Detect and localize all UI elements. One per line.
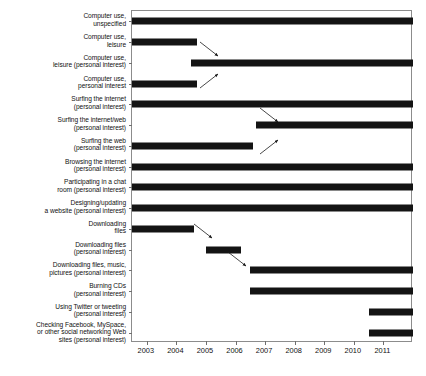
y-axis-tick [129,125,133,126]
y-axis-tick [129,21,133,22]
y-axis-label: Browsing the internet (personal interest… [0,158,126,173]
y-axis-label: Designing/updating a website (personal i… [0,200,126,215]
y-axis-label: Surfing the internet (personal interest) [0,96,126,111]
y-axis-label: Checking Facebook, MySpace, or other soc… [0,320,126,343]
y-axis-label: Participating in a chat room (personal i… [0,179,126,194]
timeline-bar [132,142,253,149]
y-axis-label: Computer use, personal interest [0,75,126,90]
y-axis-tick [129,63,133,64]
y-axis-category-labels: Computer use, unspecifiedComputer use, l… [0,0,126,376]
y-axis-tick [129,146,133,147]
x-axis-tick [354,341,355,345]
x-axis-tick [206,341,207,345]
timeline-bar [132,39,197,46]
x-axis-tick [383,341,384,345]
timeline-bar [132,163,413,170]
x-axis-tick [324,341,325,345]
y-axis-tick [129,167,133,168]
timeline-bar [132,184,413,191]
timeline-chart-figure: Computer use, unspecifiedComputer use, l… [0,0,426,376]
x-axis-tick-labels: 200320042005200620072008200920102011 [131,346,412,362]
timeline-bar [256,122,413,129]
y-axis-label: Computer use, unspecified [0,13,126,28]
timeline-bar [250,267,413,274]
timeline-bar [250,288,413,295]
y-axis-label: Using Twitter or tweeting (personal inte… [0,303,126,318]
x-axis-tick [147,341,148,345]
y-axis-tick [129,104,133,105]
y-axis-tick [129,291,133,292]
y-axis-label: Surfing the internet/web (personal inter… [0,117,126,132]
y-axis-tick [129,270,133,271]
x-axis-tick [265,341,266,345]
y-axis-tick [129,42,133,43]
x-axis-tick-label: 2011 [362,346,402,355]
plot-area [131,10,412,342]
timeline-bar [191,59,413,66]
x-axis-tick [236,341,237,345]
y-axis-label: Burning CDs (personal interest) [0,283,126,298]
timeline-bar [369,329,413,336]
y-axis-label: Downloading files [0,220,126,235]
timeline-bar [369,308,413,315]
y-axis-label: Downloading files, music, pictures (pers… [0,262,126,277]
timeline-bar [132,18,413,25]
y-axis-tick [129,312,133,313]
y-axis-label: Computer use, leisure (personal interest… [0,54,126,69]
y-axis-tick [129,333,133,334]
timeline-bar [132,225,194,232]
timeline-bar [132,80,197,87]
timeline-bar [206,246,241,253]
x-axis-tick [176,341,177,345]
x-axis-tick [295,341,296,345]
y-axis-tick [129,187,133,188]
y-axis-tick [129,208,133,209]
y-axis-tick [129,250,133,251]
timeline-bar [132,205,413,212]
y-axis-label: Downloading files (personal interest) [0,241,126,256]
y-axis-tick [129,229,133,230]
y-axis-label: Computer use, leisure [0,34,126,49]
y-axis-tick [129,84,133,85]
timeline-bar [132,101,413,108]
y-axis-label: Surfing the web (personal interest) [0,137,126,152]
